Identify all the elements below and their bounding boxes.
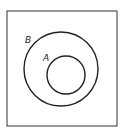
set-b-label: B	[25, 35, 31, 45]
set-a-label: A	[42, 53, 49, 63]
set-a-circle	[47, 56, 85, 94]
venn-diagram: B A	[0, 0, 126, 133]
set-b-circle	[24, 32, 98, 106]
